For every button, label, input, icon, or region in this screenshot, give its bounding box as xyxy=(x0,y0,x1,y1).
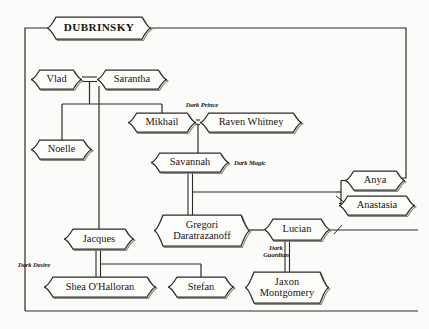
node-outline[interactable] xyxy=(31,140,92,159)
node-outline[interactable] xyxy=(47,17,151,39)
node-outline[interactable] xyxy=(128,113,196,132)
node-outline[interactable] xyxy=(97,70,167,89)
node-outlines xyxy=(31,17,416,304)
node-outline[interactable] xyxy=(44,277,156,297)
node-outline[interactable] xyxy=(64,229,134,249)
node-outline[interactable] xyxy=(339,196,415,215)
family-tree-lines xyxy=(0,0,429,329)
node-outline[interactable] xyxy=(200,113,302,132)
node-outline[interactable] xyxy=(151,153,229,172)
node-outline[interactable] xyxy=(154,215,250,246)
node-outline[interactable] xyxy=(31,70,82,89)
node-outline[interactable] xyxy=(245,272,329,303)
family-tree-diagram: DUBRINSKY Vlad Sarantha Noelle Mikhail R… xyxy=(0,0,429,329)
node-outline[interactable] xyxy=(345,171,405,190)
node-outline[interactable] xyxy=(264,219,330,240)
node-outline[interactable] xyxy=(168,277,234,297)
